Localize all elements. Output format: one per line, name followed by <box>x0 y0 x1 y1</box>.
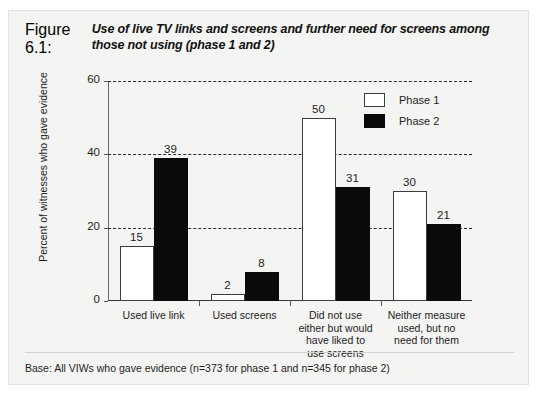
y-axis-line <box>108 81 109 301</box>
bar-phase-2[interactable] <box>154 158 188 301</box>
x-category-label-line: Used live link <box>105 309 202 322</box>
x-category-label-line: either but would <box>287 322 384 335</box>
bar-value-label: 15 <box>120 231 154 243</box>
gridline <box>108 81 472 82</box>
bar-value-label: 21 <box>427 209 461 221</box>
x-category-label-line: need for them <box>378 334 475 347</box>
x-tick-mark <box>199 301 200 306</box>
x-tick-mark <box>290 301 291 306</box>
bar-value-label: 39 <box>154 143 188 155</box>
bar-phase-1[interactable] <box>211 294 245 301</box>
figure-panel: Figure 6.1: Use of live TV links and scr… <box>8 10 529 385</box>
bar-value-label: 30 <box>393 176 427 188</box>
x-category-label-line: have liked to <box>287 334 384 347</box>
bar-phase-2[interactable] <box>245 272 279 301</box>
bar-value-label: 31 <box>336 172 370 184</box>
plot-area: 15392850313021 Phase 1 Phase 2 <box>108 81 472 301</box>
legend-item-phase-1[interactable]: Phase 1 <box>364 89 439 110</box>
x-category-label-line: Used screens <box>196 309 293 322</box>
legend-label-phase-2: Phase 2 <box>399 115 439 127</box>
figure-footnote: Base: All VIWs who gave evidence (n=373 … <box>25 362 390 374</box>
legend-item-phase-2[interactable]: Phase 2 <box>364 110 439 131</box>
y-axis-title: Percent of witnesses who gave evidence <box>37 67 49 267</box>
bar-phase-2[interactable] <box>336 187 370 301</box>
bar-chart: Percent of witnesses who gave evidence 1… <box>9 11 530 353</box>
y-tick-mark <box>104 301 108 302</box>
y-tick-mark <box>104 228 108 229</box>
y-tick-label: 60 <box>74 73 100 85</box>
y-tick-label: 20 <box>74 220 100 232</box>
bar-phase-2[interactable] <box>427 224 461 301</box>
footnote-divider <box>25 352 514 353</box>
legend-label-phase-1: Phase 1 <box>399 94 439 106</box>
bar-phase-1[interactable] <box>302 118 336 301</box>
bar-value-label: 50 <box>302 103 336 115</box>
legend-swatch-phase-2-icon <box>364 114 385 128</box>
bar-phase-1[interactable] <box>393 191 427 301</box>
legend-swatch-phase-1-icon <box>364 93 385 107</box>
y-tick-mark <box>104 81 108 82</box>
x-category-label-line: Did not use <box>287 309 384 322</box>
bar-value-label: 2 <box>211 279 245 291</box>
x-category-label: Used screens <box>196 309 293 322</box>
y-tick-mark <box>104 154 108 155</box>
y-tick-label: 40 <box>74 146 100 158</box>
bar-value-label: 8 <box>245 257 279 269</box>
x-category-label-line: Neither measure <box>378 309 475 322</box>
x-category-label: Neither measureused, but noneed for them <box>378 309 475 347</box>
x-tick-mark <box>381 301 382 306</box>
chart-legend: Phase 1 Phase 2 <box>364 89 439 131</box>
bar-phase-1[interactable] <box>120 246 154 301</box>
y-tick-label: 0 <box>74 293 100 305</box>
x-category-label-line: used, but no <box>378 322 475 335</box>
x-category-label: Used live link <box>105 309 202 322</box>
